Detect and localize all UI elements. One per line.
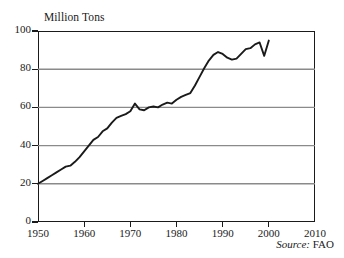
x-tick-mark	[130, 222, 131, 227]
x-tick-mark	[84, 222, 85, 227]
x-tick-label: 1980	[166, 227, 188, 239]
chart-page: Million Tons 020406080100 19501960197019…	[0, 0, 344, 258]
x-tick-label: 1970	[119, 227, 141, 239]
x-tick-mark	[176, 222, 177, 227]
source-label: Source:	[276, 238, 310, 250]
x-axis: 1950196019701980199020002010	[0, 0, 344, 258]
source-value: FAO	[313, 238, 334, 250]
x-tick-mark	[268, 222, 269, 227]
x-tick-mark	[222, 222, 223, 227]
x-tick-label: 1960	[73, 227, 95, 239]
x-tick-label: 1990	[212, 227, 234, 239]
x-tick-label: 1950	[27, 227, 49, 239]
source-annotation: Source: FAO	[276, 238, 334, 250]
